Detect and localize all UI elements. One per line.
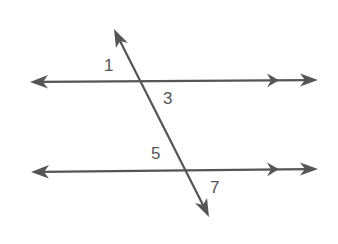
angle-label-1: 1 [104, 57, 113, 74]
angle-label-5: 5 [151, 145, 160, 162]
upper-parallel-line [30, 74, 318, 89]
angle-label-3: 3 [163, 90, 172, 107]
transversal-line [114, 29, 209, 217]
lower-parallel-line [31, 163, 318, 179]
angle-label-7: 7 [210, 179, 219, 196]
diagram-canvas [0, 0, 338, 244]
